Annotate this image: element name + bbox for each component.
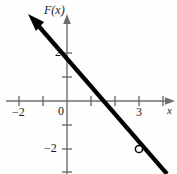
x-axis-label: x (167, 105, 172, 116)
function-label: F(x) (44, 4, 65, 16)
x-tick-label--2: −2 (12, 106, 25, 118)
graph-figure: F(x) x −2 0 3 2 −2 (0, 0, 177, 174)
x-tick-label-3: 3 (136, 106, 142, 118)
open-endpoint-marker (135, 145, 142, 152)
y-tick-label--2: −2 (44, 142, 57, 154)
origin-label: 0 (58, 105, 64, 117)
axes-group (6, 14, 175, 174)
y-tick-label-2: 2 (55, 46, 61, 58)
coordinate-plane-svg (0, 0, 177, 174)
